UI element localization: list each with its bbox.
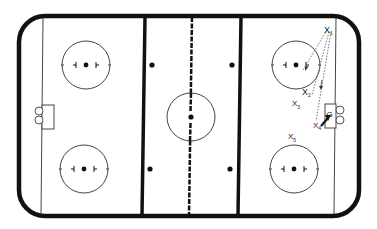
player-x5: X5 xyxy=(288,132,296,143)
neutral-dot xyxy=(229,62,234,67)
blue-line-left xyxy=(142,17,145,215)
goal-left xyxy=(35,105,54,129)
faceoff-circle-left-bottom xyxy=(59,145,109,193)
neutral-dot xyxy=(149,62,154,67)
player-x3: X3 xyxy=(292,99,300,110)
arrow-head-icon xyxy=(319,86,323,90)
hockey-rink-diagram: X1 X2 X3 X4 X5 G xyxy=(0,0,377,229)
player-x4: X4 xyxy=(313,121,321,131)
center-faceoff-dot xyxy=(188,114,193,119)
player-x1: X1 xyxy=(324,25,333,36)
faceoff-circle-left-top xyxy=(61,41,111,89)
neutral-dot xyxy=(147,166,152,171)
blue-line-right xyxy=(238,17,241,215)
player-x2: X2 xyxy=(302,87,311,98)
faceoff-circle-right-top xyxy=(271,41,321,89)
neutral-dot xyxy=(227,166,232,171)
goalie-label: G xyxy=(327,110,333,119)
faceoff-circle-right-bottom xyxy=(269,145,319,193)
